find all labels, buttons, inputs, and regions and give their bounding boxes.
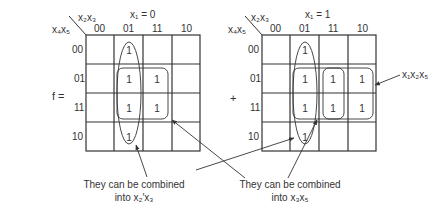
row-label: 10 — [72, 131, 84, 142]
kmap-x1-1: x₂x₃ x₄x₅ x₁ = 1 00 01 11 10 00 01 11 10… — [228, 9, 376, 151]
col-variable-label: x₂x₃ — [78, 12, 96, 23]
cell: 1 — [359, 74, 365, 85]
col-label: 11 — [328, 23, 339, 34]
cell: 1 — [330, 103, 336, 114]
map-grid — [86, 35, 200, 151]
map-title: x₁ = 1 — [305, 9, 331, 20]
cell: 1 — [126, 132, 132, 143]
cell: 1 — [154, 74, 160, 85]
row-variable-label: x₄x₅ — [228, 24, 246, 35]
row-label: 11 — [250, 102, 261, 113]
cell: 1 — [302, 132, 308, 143]
col-label: 00 — [94, 23, 106, 34]
map-title: x₁ = 0 — [130, 9, 156, 20]
row-label: 00 — [72, 44, 84, 55]
row-label: 01 — [74, 73, 86, 84]
map-grid — [262, 35, 376, 151]
plus-sign: + — [230, 92, 236, 104]
row-label: 01 — [250, 73, 262, 84]
row-label: 11 — [74, 102, 85, 113]
cell: 1 — [359, 103, 365, 114]
row-label: 00 — [248, 44, 260, 55]
col-label: 01 — [299, 23, 311, 34]
cell: 1 — [154, 103, 160, 114]
col-label: 10 — [181, 23, 193, 34]
col-label: 10 — [357, 23, 369, 34]
note-left-line2: into x₂′x₃ — [115, 192, 154, 203]
note-left-line1: They can be combined — [83, 179, 184, 190]
col-label: 01 — [123, 23, 135, 34]
arrow-right-note-to-right-rect — [288, 120, 317, 178]
note-right-line2: into x₃x₅ — [271, 192, 308, 203]
cell: 1 — [330, 74, 336, 85]
arrow-left-note-to-right-ellipse — [196, 138, 294, 170]
cell: 1 — [126, 103, 132, 114]
col-variable-label: x₂x₃ — [251, 12, 269, 23]
arrow-x1x2x5 — [375, 75, 400, 85]
cell: 1 — [302, 103, 308, 114]
row-variable-label: x₄x₅ — [52, 24, 70, 35]
kmap-x1-0: x₂x₃ x₄x₅ x₁ = 0 00 01 11 10 00 01 11 10… — [52, 9, 200, 151]
karnaugh-diagram: f = + x₂x₃ x₄x₅ x₁ = 0 00 01 11 10 00 01… — [0, 0, 438, 216]
cell: 1 — [302, 45, 308, 56]
arrow-left-note-to-ellipse — [136, 145, 147, 177]
cell: 1 — [126, 74, 132, 85]
label-x1x2x5: x₁x₂x₅ — [402, 69, 428, 80]
col-label: 00 — [270, 23, 282, 34]
note-right-line1: They can be combined — [239, 179, 340, 190]
row-label: 10 — [248, 131, 260, 142]
arrow-right-note-to-left-rect — [172, 120, 245, 178]
col-label: 11 — [152, 23, 163, 34]
function-label: f = — [52, 90, 65, 102]
cell: 1 — [302, 74, 308, 85]
cell: 1 — [126, 45, 132, 56]
